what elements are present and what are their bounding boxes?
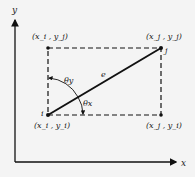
diagram-svg: y x (x_i , y_j) (x_j , y_j) (x_i , y_i) … <box>0 0 195 177</box>
x-axis-label: x <box>181 158 186 168</box>
node-bottom-right <box>159 113 163 117</box>
label-theta-y: θy <box>64 76 74 85</box>
node-i <box>46 113 50 117</box>
node-j <box>159 46 163 50</box>
label-bottom-left: (x_i , y_i) <box>34 121 70 130</box>
label-theta-x: θx <box>83 99 93 108</box>
label-top-left: (x_i , y_j) <box>32 32 68 41</box>
node-top-left <box>46 46 50 50</box>
label-node-i: i <box>41 109 44 118</box>
label-top-right: (x_j , y_j) <box>146 32 182 41</box>
y-axis-label: y <box>11 5 18 15</box>
label-element-e: e <box>101 70 106 79</box>
element-geometry-diagram: y x (x_i , y_j) (x_j , y_j) (x_i , y_i) … <box>0 0 195 177</box>
label-bottom-right: (x_j , y_i) <box>146 121 182 130</box>
label-node-j: j <box>163 46 168 55</box>
